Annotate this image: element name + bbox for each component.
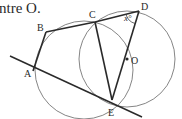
- geometry-diagram: ntre O. x° A B C D O E: [0, 0, 182, 119]
- circle-abce: [35, 21, 133, 119]
- label-c: C: [89, 9, 96, 20]
- label-a: A: [24, 68, 32, 79]
- caption-text: ntre O.: [0, 0, 41, 16]
- segment-ab: [33, 32, 46, 71]
- segment-ce: [95, 22, 112, 100]
- label-e: E: [108, 107, 114, 118]
- segment-bc: [46, 22, 95, 32]
- label-d: D: [141, 1, 148, 12]
- segment-cd: [95, 11, 139, 22]
- centre-point-o: [125, 57, 128, 60]
- angle-label: x°: [123, 13, 132, 23]
- label-b: B: [37, 22, 44, 33]
- label-o: O: [131, 55, 138, 66]
